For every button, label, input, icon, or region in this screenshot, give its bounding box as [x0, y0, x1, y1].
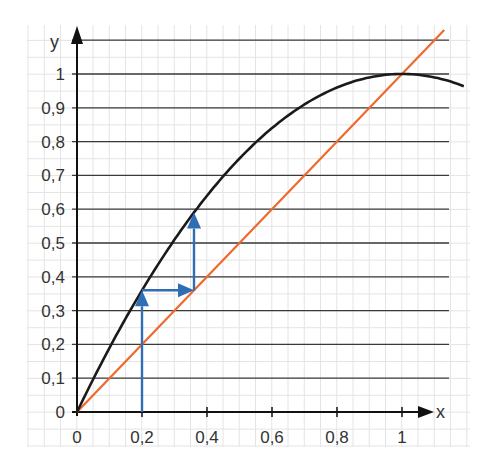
x-tick-label: 0,4 [195, 428, 219, 447]
x-axis-label: x [436, 402, 445, 422]
y-tick-label: 0,7 [41, 166, 65, 185]
y-tick-labels: 00,10,20,30,40,50,60,70,80,91 [41, 65, 65, 422]
x-tick-label: 0,8 [325, 428, 349, 447]
x-tick-label: 0,6 [260, 428, 284, 447]
x-tick-label: 0 [72, 428, 81, 447]
y-tick-label: 0 [56, 403, 65, 422]
line-y-equals-x [77, 30, 444, 412]
y-tick-label: 0,2 [41, 335, 65, 354]
x-tick-label: 1 [397, 428, 406, 447]
y-tick-label: 0,9 [41, 99, 65, 118]
background-grid [27, 25, 470, 447]
y-tick-label: 0,8 [41, 133, 65, 152]
y-tick-label: 0,3 [41, 302, 65, 321]
chart: 00,10,20,30,40,50,60,70,80,91 00,20,40,6… [0, 0, 493, 469]
y-tick-label: 0,6 [41, 200, 65, 219]
y-tick-label: 0,4 [41, 268, 65, 287]
y-tick-label: 0,5 [41, 234, 65, 253]
y-axis-label: y [50, 32, 59, 52]
x-tick-label: 0,2 [130, 428, 154, 447]
y-tick-label: 1 [56, 65, 65, 84]
y-tick-label: 0,1 [41, 369, 65, 388]
